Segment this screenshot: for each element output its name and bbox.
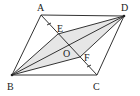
label-e: E [57, 23, 63, 34]
label-o: O [63, 48, 70, 59]
label-b: B [7, 81, 14, 92]
label-c: C [93, 81, 100, 92]
label-f: F [84, 52, 90, 63]
diagonal-bd [12, 16, 124, 75]
label-d: D [121, 2, 128, 13]
point-b-dot [11, 74, 14, 77]
parallelogram-diagram: A D B C E O F [0, 0, 140, 96]
point-d-dot [123, 15, 126, 18]
label-a: A [37, 2, 45, 13]
